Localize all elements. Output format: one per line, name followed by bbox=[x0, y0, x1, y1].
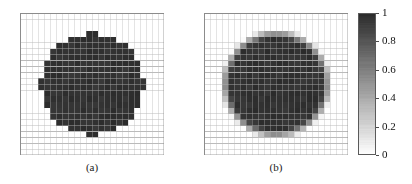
colorbar-tick-mark bbox=[376, 13, 379, 14]
colorbar bbox=[358, 13, 376, 155]
colorbar-tick-mark bbox=[376, 41, 379, 42]
colorbar-tick-label: 0.6 bbox=[382, 64, 396, 75]
colorbar-tick-label: 0 bbox=[382, 149, 388, 160]
colorbar-tick-label: 0.8 bbox=[382, 35, 396, 46]
panel-b-caption: (b) bbox=[204, 161, 348, 173]
figure-root: (a) (b) 10.80.60.40.20 bbox=[0, 0, 412, 184]
colorbar-tick-label: 0.2 bbox=[382, 121, 396, 132]
colorbar-tick-mark bbox=[376, 127, 379, 128]
colorbar-tick-mark bbox=[376, 98, 379, 99]
colorbar-tick-label: 0.4 bbox=[382, 92, 396, 103]
colorbar-gradient bbox=[358, 13, 376, 155]
panel-a-caption: (a) bbox=[20, 161, 164, 173]
colorbar-tick-mark bbox=[376, 70, 379, 71]
heatmap-canvas-a bbox=[20, 13, 164, 155]
heatmap-panel-b bbox=[204, 13, 348, 155]
heatmap-panel-a bbox=[20, 13, 164, 155]
colorbar-tick-mark bbox=[376, 155, 379, 156]
colorbar-tick-label: 1 bbox=[382, 7, 388, 18]
heatmap-canvas-b bbox=[204, 13, 348, 155]
